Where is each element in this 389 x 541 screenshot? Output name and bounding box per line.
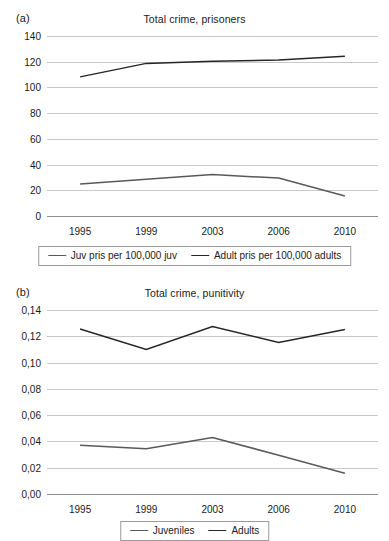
chart-panel-a: (a) Total crime, prisoners 0204060801001… <box>0 0 389 278</box>
legend-item[interactable]: Adults <box>208 525 259 536</box>
legend-label: Adult pris per 100,000 adults <box>214 250 341 261</box>
y-axis-tick-label: 20 <box>30 185 42 196</box>
x-axis-labels-a: 19951999200320062010 <box>0 224 389 240</box>
y-axis-tick-label: 0,08 <box>22 384 42 395</box>
y-axis-tick-label: 80 <box>30 108 42 119</box>
legend-item[interactable]: Adult pris per 100,000 adults <box>191 250 341 261</box>
y-axis-tick-label: 100 <box>24 82 41 93</box>
plot-area-a: 020406080100120140 <box>0 30 389 222</box>
x-axis-tick-label: 1995 <box>69 226 92 237</box>
x-axis-tick-label: 2006 <box>268 504 291 515</box>
x-axis-svg-a: 19951999200320062010 <box>0 224 389 240</box>
legend-item[interactable]: Juveniles <box>130 525 195 536</box>
y-axis-tick-label: 40 <box>30 160 42 171</box>
y-axis-tick-label: 0,10 <box>22 358 42 369</box>
legend-line-swatch <box>48 255 66 256</box>
y-axis-tick-label: 0 <box>35 211 41 222</box>
y-axis-tick-label: 0,14 <box>22 305 42 316</box>
y-axis-tick-label: 60 <box>30 134 42 145</box>
legend-label: Adults <box>231 525 259 536</box>
y-axis-tick-label: 0,04 <box>22 436 42 447</box>
x-axis-tick-label: 2010 <box>334 226 357 237</box>
x-axis-tick-label: 2003 <box>201 226 224 237</box>
x-axis-tick-label: 2003 <box>201 504 224 515</box>
legend-a: Juv pris per 100,000 juvAdult pris per 1… <box>38 246 351 266</box>
x-axis-svg-b: 19951999200320062010 <box>0 502 389 518</box>
legend-label: Juveniles <box>153 525 195 536</box>
line-chart-b: 0,000,020,040,060,080,100,120,14 <box>0 304 389 500</box>
x-axis-labels-b: 19951999200320062010 <box>0 502 389 518</box>
line-chart-a: 020406080100120140 <box>0 30 389 222</box>
y-axis-tick-label: 0,00 <box>22 489 42 500</box>
chart-title-b: Total crime, punitivity <box>0 287 389 299</box>
x-axis-tick-label: 1999 <box>135 226 158 237</box>
chart-panel-b: (b) Total crime, punitivity 0,000,020,04… <box>0 278 389 541</box>
legend-line-swatch <box>191 255 209 256</box>
y-axis-tick-label: 0,02 <box>22 463 42 474</box>
series-line <box>80 56 345 77</box>
series-line <box>80 175 345 196</box>
y-axis-tick-label: 0,12 <box>22 331 42 342</box>
legend-line-swatch <box>130 530 148 531</box>
chart-title-a: Total crime, prisoners <box>0 13 389 25</box>
x-axis-tick-label: 2006 <box>268 226 291 237</box>
y-axis-tick-label: 120 <box>24 57 41 68</box>
legend-line-swatch <box>208 530 226 531</box>
series-line <box>80 437 345 473</box>
x-axis-tick-label: 2010 <box>334 504 357 515</box>
legend-b: JuvenilesAdults <box>120 521 270 541</box>
y-axis-tick-label: 0,06 <box>22 410 42 421</box>
x-axis-tick-label: 1995 <box>69 504 92 515</box>
legend-item[interactable]: Juv pris per 100,000 juv <box>48 250 177 261</box>
x-axis-tick-label: 1999 <box>135 504 158 515</box>
y-axis-tick-label: 140 <box>24 31 41 42</box>
legend-label: Juv pris per 100,000 juv <box>71 250 177 261</box>
plot-area-b: 0,000,020,040,060,080,100,120,14 <box>0 304 389 500</box>
series-line <box>80 326 345 349</box>
